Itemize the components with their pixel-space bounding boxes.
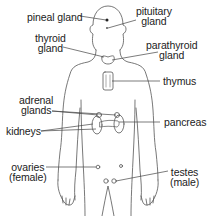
endocrine-diagram: pineal gland pituitary gland thyroid gla… [0, 0, 214, 216]
left-arm-inner [75, 108, 80, 200]
testis-left [104, 179, 108, 183]
label-thymus: thymus [163, 76, 196, 86]
ovary-right [120, 165, 123, 168]
kidney-left [92, 116, 102, 134]
pituitary-dot [106, 27, 108, 29]
label-parathyroid-gland: parathyroid gland [146, 40, 197, 60]
crotch [102, 186, 114, 216]
torso-right [131, 100, 135, 216]
label-kidneys: kidneys [6, 126, 41, 136]
thymus-shape [103, 72, 113, 90]
label-testes: testes (male) [170, 167, 199, 187]
left-hand [58, 180, 75, 205]
label-ovaries: ovaries (female) [9, 162, 47, 182]
pancreas-shape [100, 120, 119, 127]
testis-right [112, 179, 116, 183]
label-pituitary-gland: pituitary gland [136, 6, 172, 26]
torso-left [81, 100, 85, 216]
left-shoulder-outline [58, 50, 96, 180]
ovary-left [96, 165, 100, 169]
label-adrenal-glands: adrenal glands [19, 95, 53, 115]
label-thyroid-gland: thyroid gland [35, 33, 66, 53]
right-hand [141, 180, 158, 205]
label-pineal-gland: pineal gland [27, 12, 82, 22]
label-pancreas: pancreas [164, 117, 206, 127]
right-shoulder-outline [120, 50, 158, 180]
